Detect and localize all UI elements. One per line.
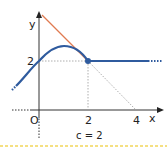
x-tick-2: 2: [85, 114, 92, 127]
x-axis-label: x: [149, 112, 156, 125]
diagram: y 2 O 2 4 x c = 2: [0, 0, 167, 150]
x-arrow-icon: [157, 107, 164, 113]
tangent-extension: [88, 61, 136, 110]
caption: c = 2: [76, 130, 103, 141]
y-tick-2: 2: [27, 55, 34, 68]
x-tick-4: 4: [133, 114, 140, 127]
y-axis-label: y: [29, 18, 36, 31]
y-arrow-icon: [36, 11, 42, 18]
point-2-2: [85, 58, 91, 64]
curve: [12, 46, 162, 90]
origin-label: O: [30, 114, 39, 127]
